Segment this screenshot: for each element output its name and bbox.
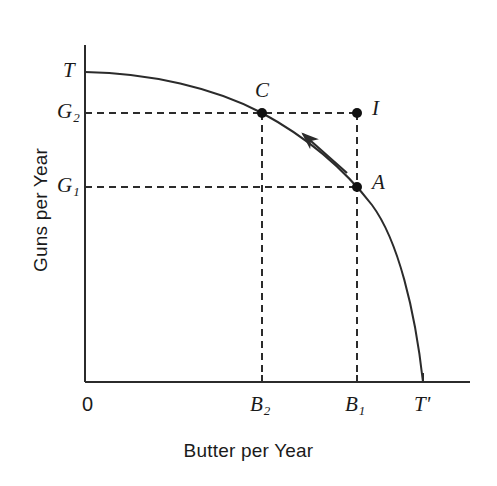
origin-label: 0: [82, 394, 93, 414]
y-axis-title: Guns per Year: [30, 80, 60, 340]
data-point-c[interactable]: [257, 108, 267, 118]
ppf-figure: T G2 G1 0 B2 B1 T' C I A Butter per Year…: [0, 0, 497, 486]
y-tick-label-g1: G1: [57, 175, 79, 196]
point-label-c: C: [255, 80, 269, 101]
data-point-i[interactable]: [352, 108, 362, 118]
x-tick-label-tprime: T': [414, 394, 430, 415]
point-label-i: I: [372, 98, 379, 119]
x-tick-label-b1: B1: [345, 394, 364, 415]
y-tick-label-t: T: [63, 60, 75, 81]
point-label-a: A: [372, 172, 385, 193]
movement-arrow: [303, 134, 347, 173]
y-tick-label-g2: G2: [57, 101, 79, 122]
x-axis-title: Butter per Year: [0, 440, 497, 462]
x-tick-label-b2: B2: [250, 394, 269, 415]
data-point-a[interactable]: [352, 182, 362, 192]
